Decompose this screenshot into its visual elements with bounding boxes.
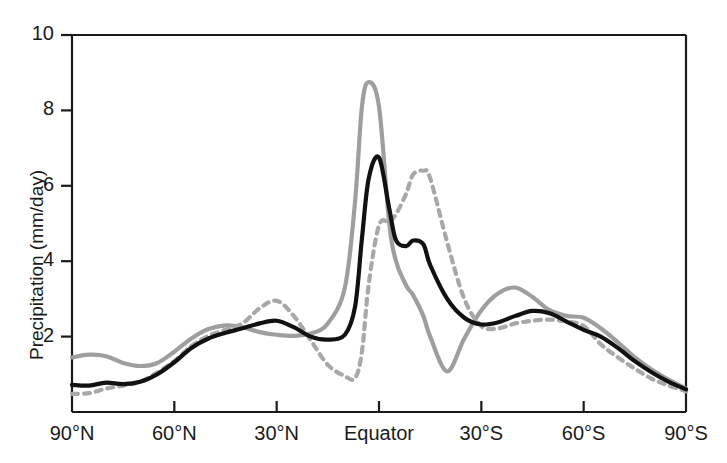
y-tick-label: 2 [14, 324, 54, 347]
y-tick-label: 4 [14, 248, 54, 271]
data-series-group [72, 82, 686, 394]
precipitation-by-latitude-chart: Precipitation (mm/day) 246810 90°N60°N30… [0, 0, 727, 463]
x-tick-label: 90°S [626, 422, 727, 445]
y-tick-label: 10 [14, 22, 54, 45]
chart-plot-area [0, 0, 727, 463]
solid-black-curve [72, 156, 686, 389]
y-tick-label: 8 [14, 97, 54, 120]
solid-gray-curve [72, 82, 686, 389]
y-tick-label: 6 [14, 173, 54, 196]
